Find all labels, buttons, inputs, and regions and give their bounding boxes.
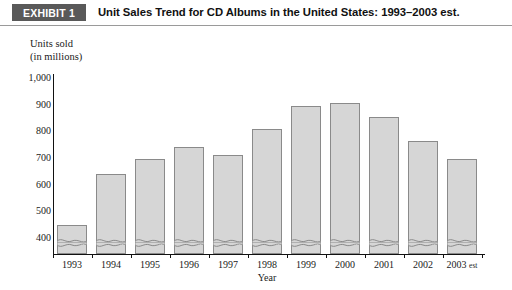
exhibit-header: EXHIBIT 1 Unit Sales Trend for CD Albums… bbox=[0, 0, 512, 26]
exhibit-chart-page: EXHIBIT 1 Unit Sales Trend for CD Albums… bbox=[0, 0, 512, 290]
plot-area: 1993199419951996199719981999200020012002… bbox=[54, 26, 486, 290]
axis-break-wave-bottom bbox=[330, 242, 360, 249]
x-axis-tick-mark bbox=[53, 254, 54, 258]
axis-break-wave-bottom bbox=[57, 242, 87, 249]
bar-body bbox=[135, 159, 165, 242]
y-axis-tick: 400 bbox=[5, 233, 51, 243]
axis-break-wave-bottom bbox=[96, 242, 126, 249]
bar-body bbox=[96, 174, 126, 242]
bar-body bbox=[408, 141, 438, 242]
y-axis-tick: 700 bbox=[5, 153, 51, 163]
axis-break-wave-bottom bbox=[252, 242, 282, 249]
x-axis-tick-mark bbox=[482, 254, 483, 258]
bar-body bbox=[174, 147, 204, 242]
axis-break-wave-bottom bbox=[447, 242, 477, 249]
x-axis-tick-mark bbox=[209, 254, 210, 258]
axis-break-wave-bottom bbox=[408, 242, 438, 249]
y-axis-tick: 800 bbox=[5, 126, 51, 136]
axis-break-wave-bottom bbox=[135, 242, 165, 249]
x-axis-title: Year bbox=[240, 272, 294, 283]
x-axis-tick-mark bbox=[131, 254, 132, 258]
axis-break-wave-bottom bbox=[174, 242, 204, 249]
y-axis-tick: 600 bbox=[5, 180, 51, 190]
x-axis-tick-mark bbox=[287, 254, 288, 258]
exhibit-title: Unit Sales Trend for CD Albums in the Un… bbox=[98, 4, 460, 21]
y-axis-tick: 500 bbox=[5, 206, 51, 216]
bar-chart: Units sold (in millions) 400500600700800… bbox=[0, 26, 512, 290]
axis-break-wave-bottom bbox=[291, 242, 321, 249]
bar-body bbox=[213, 155, 243, 242]
bar-body bbox=[291, 106, 321, 242]
x-axis-tick-mark bbox=[443, 254, 444, 258]
x-axis-tick-mark bbox=[248, 254, 249, 258]
x-axis-tick-mark bbox=[404, 254, 405, 258]
y-axis-tick-labels: 4005006007008009001,000 bbox=[0, 26, 51, 290]
x-axis-tick-mark bbox=[365, 254, 366, 258]
y-axis-tick: 900 bbox=[5, 100, 51, 110]
axis-break-wave-bottom bbox=[369, 242, 399, 249]
x-axis-tick-mark bbox=[170, 254, 171, 258]
bar-body bbox=[369, 117, 399, 242]
bar-body bbox=[330, 103, 360, 242]
bar-body bbox=[252, 129, 282, 242]
x-axis-tick-mark bbox=[326, 254, 327, 258]
bar-body bbox=[447, 159, 477, 242]
axis-break-wave-bottom bbox=[213, 242, 243, 249]
y-axis-tick: 1,000 bbox=[5, 73, 51, 83]
exhibit-badge: EXHIBIT 1 bbox=[12, 4, 86, 21]
x-axis-tick: 2003 est bbox=[435, 259, 489, 271]
x-axis-tick-mark bbox=[92, 254, 93, 258]
